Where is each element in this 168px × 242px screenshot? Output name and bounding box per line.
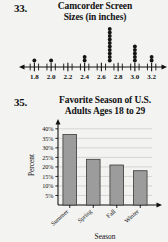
problem-33-number: 33.: [14, 2, 27, 14]
dot-plot-tick-label: 2.6: [97, 73, 106, 81]
bar-chart-bar: [63, 135, 77, 205]
dot-plot-dot: [83, 55, 87, 59]
y-axis-tick-label: 40%: [42, 125, 53, 132]
dot-plot-dot: [133, 48, 137, 52]
axis-arrow-left-icon: [19, 64, 25, 69]
dot-plot-region: 1.82.02.22.42.62.83.03.2: [0, 24, 168, 84]
x-axis-category-label: Fall: [105, 207, 117, 219]
problem-33-title-line-1: Camcorder Screen: [30, 1, 160, 12]
axis-arrow-right-icon: [162, 64, 168, 69]
x-axis-category-label: Summer: [49, 208, 69, 227]
y-axis-tick-label: 15%: [42, 173, 53, 180]
dot-plot-dot: [108, 48, 112, 52]
dot-plot-dot: [108, 41, 112, 45]
dot-plot-dot: [108, 31, 112, 35]
dot-plot-dot: [150, 55, 154, 59]
dot-plot-dot: [108, 34, 112, 38]
dot-plot-tick-label: 2.2: [64, 73, 73, 81]
dot-plot-dot: [150, 59, 154, 63]
x-axis-category-label: Winter: [123, 208, 140, 225]
dot-plot-stack: [108, 27, 112, 62]
y-axis-tick-label: 35%: [42, 135, 53, 142]
y-axis-tick-label: 25%: [42, 154, 53, 161]
bar-chart-bar: [110, 165, 124, 205]
dot-plot-dot: [133, 52, 137, 56]
problem-35-title-line-2: Adults Ages 18 to 29: [44, 106, 166, 117]
dot-plot-tick-label: 3.2: [147, 73, 156, 81]
dot-plot-dot: [108, 52, 112, 56]
dot-plot-dot: [108, 38, 112, 42]
dot-plot-dot: [49, 59, 53, 63]
dot-plot-tick-label: 2.0: [47, 73, 56, 81]
dot-plot-tick-label: 2.8: [114, 73, 123, 81]
y-axis-tick-label: 30%: [42, 144, 53, 151]
dot-plot-dot: [108, 45, 112, 49]
dot-plot-dot: [83, 59, 87, 63]
dot-plot-stack: [32, 59, 36, 63]
problem-33-title-line-2: Sizes (in inches): [30, 12, 160, 23]
dot-plot-dot: [108, 27, 112, 31]
bar-chart-bar: [86, 159, 100, 205]
bar-chart-region: 5%10%15%20%25%30%35%40%SummerSpringFallW…: [0, 117, 168, 242]
bar-chart-svg: 5%10%15%20%25%30%35%40%SummerSpringFallW…: [0, 117, 168, 242]
problem-35-title-line-1: Favorite Season of U.S.: [44, 95, 166, 106]
dot-plot-tick-label: 2.4: [80, 73, 89, 81]
dot-plot-tick-label: 3.0: [131, 73, 140, 81]
bar-chart-bar: [133, 171, 147, 205]
dot-plot-svg: 1.82.02.22.42.62.83.03.2: [0, 24, 168, 84]
dot-plot-stack: [150, 55, 154, 62]
x-axis-title: Season: [95, 232, 116, 241]
dot-plot-dot: [133, 59, 137, 63]
y-axis-arrow-icon: [56, 119, 61, 125]
dot-plot-stack: [83, 55, 87, 62]
dot-plot-dot: [108, 55, 112, 59]
dot-plot-stack: [49, 59, 53, 63]
dot-plot-tick-label: 1.8: [30, 73, 39, 81]
y-axis-tick-label: 10%: [42, 182, 53, 189]
dot-plot-dot: [133, 45, 137, 49]
dot-plot-dot: [133, 55, 137, 59]
y-axis-title: Percent: [27, 153, 36, 176]
x-axis-category-label: Spring: [76, 208, 93, 224]
dot-plot-dot: [32, 59, 36, 63]
dot-plot-stack: [133, 45, 137, 63]
y-axis-tick-label: 5%: [45, 192, 53, 199]
problem-35-number: 35.: [14, 96, 27, 108]
y-axis-tick-label: 20%: [42, 163, 53, 170]
dot-plot-dot: [108, 59, 112, 63]
x-axis-arrow-icon: [157, 203, 163, 208]
